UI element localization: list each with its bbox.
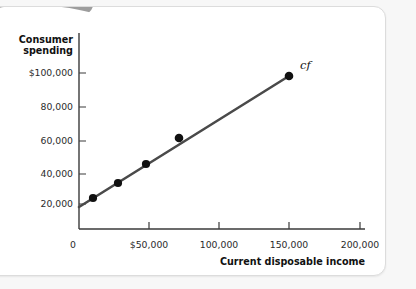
figure-card: $100,000 80,000 60,000 40,000 20,000 Con…	[0, 6, 386, 276]
y-tick-label-60000: 60,000	[40, 135, 73, 146]
consumption-function-chart: $100,000 80,000 60,000 40,000 20,000 Con…	[0, 7, 385, 275]
data-point-1	[89, 194, 97, 202]
y-tick-label-100000: $100,000	[29, 67, 73, 78]
page-background: $100,000 80,000 60,000 40,000 20,000 Con…	[0, 0, 416, 289]
consumption-function-line	[79, 76, 289, 207]
y-axis-title-line1: Consumer	[19, 34, 74, 45]
data-point-2	[114, 179, 122, 187]
y-axis-title-line2: spending	[23, 45, 73, 56]
chart-plot-area: $100,000 80,000 60,000 40,000 20,000 Con…	[0, 7, 385, 275]
x-tick-label-0: 0	[70, 239, 76, 250]
y-axis-title: Consumer spending	[19, 34, 74, 56]
y-tick-label-40000: 40,000	[40, 168, 73, 179]
y-axis-ticks	[79, 73, 86, 204]
y-tick-label-20000: 20,000	[40, 198, 73, 209]
data-point-5	[285, 72, 294, 81]
data-point-4	[175, 134, 184, 143]
x-axis-tick-labels: 0 $50,000 100,000 150,000 200,000	[70, 239, 379, 250]
y-axis-tick-labels: $100,000 80,000 60,000 40,000 20,000	[29, 67, 73, 209]
y-tick-label-80000: 80,000	[40, 101, 73, 112]
x-tick-label-50000: $50,000	[130, 239, 169, 250]
axes-group	[79, 33, 365, 229]
data-point-3	[142, 160, 150, 168]
x-tick-label-150000: 150,000	[270, 239, 309, 250]
x-tick-label-200000: 200,000	[341, 239, 380, 250]
x-tick-label-100000: 100,000	[200, 239, 239, 250]
series-label-cf: cf	[300, 58, 312, 72]
x-axis-ticks	[149, 222, 360, 229]
x-axis-title: Current disposable income	[220, 256, 366, 267]
